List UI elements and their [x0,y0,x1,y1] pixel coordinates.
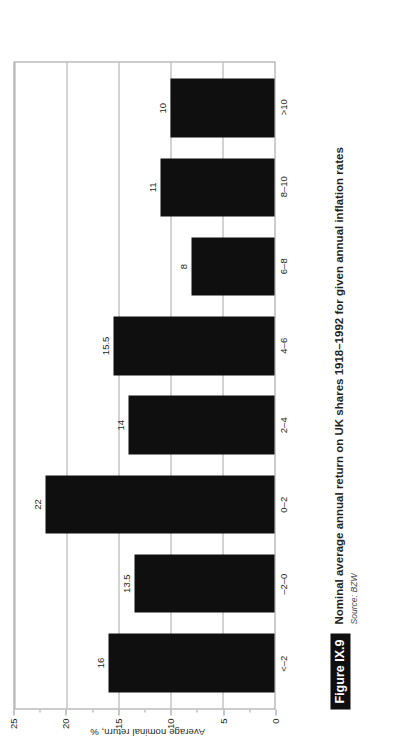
bar-value-label: 15.5 [99,336,110,355]
category-axis: <–2–2–00–22–44–66–88–10>10 [277,61,297,709]
axis-tick-label-10: 10 [165,718,176,729]
axis-tick-label-15: 15 [112,718,123,729]
bar-slot: 10 [14,68,274,147]
chart-figure: Average nominal return, % 25 20 15 10 5 [0,0,315,751]
bar-value-label: 16 [94,657,105,668]
axis-tick-label-0: 0 [270,718,281,723]
plot-area: 1613.5221415.581110 [13,61,275,709]
bar[interactable]: 14 [128,395,274,454]
bar-slot: 8 [14,227,274,306]
axis-tick-5 [223,709,224,715]
bar[interactable]: 10 [170,78,274,137]
bar-slot: 22 [14,464,274,543]
figure-number-badge: Figure IX.9 [330,633,350,709]
axis-tick-10 [170,709,171,715]
axis-tick-20 [65,709,66,715]
axis-minor-tick-7-5 [196,709,197,713]
bar-slot: 15.5 [14,306,274,385]
axis-minor-tick-22-5 [39,709,40,713]
category-axis-label: <–2 [277,624,297,704]
bar-value-label: 13.5 [120,574,131,593]
axis-tick-15 [118,709,119,715]
bar-slot: 11 [14,147,274,226]
bar[interactable]: 11 [160,158,274,217]
category-axis-label: 4–6 [277,306,297,386]
caption-text-block: Nominal average annual return on UK shar… [330,19,358,624]
category-axis-label: 2–4 [277,385,297,465]
category-axis-label: 6–8 [277,226,297,306]
bar-value-label: 10 [156,102,167,113]
bar-slot: 13.5 [14,544,274,623]
bar-value-label: 14 [114,419,125,430]
bar[interactable]: 15.5 [113,316,274,375]
value-axis: 25 20 15 10 5 0 [13,709,275,751]
bar[interactable]: 8 [191,237,274,296]
figure-caption: Figure IX.9 Nominal average annual retur… [330,19,358,709]
caption-title: Nominal average annual return on UK shar… [331,19,345,624]
axis-tick-0 [275,709,276,715]
bar-series: 1613.5221415.581110 [14,62,274,708]
bar-value-label: 11 [146,182,157,192]
category-axis-label: –2–0 [277,544,297,624]
axis-tick-label-25: 25 [8,718,19,729]
bar-slot: 16 [14,623,274,702]
axis-tick-label-5: 5 [217,718,228,723]
bar[interactable]: 22 [45,475,274,534]
rotated-page: Average nominal return, % 25 20 15 10 5 [0,0,401,751]
category-axis-label: 0–2 [277,465,297,545]
bar[interactable]: 16 [108,633,274,692]
caption-source: Source: BZW [348,19,358,624]
category-axis-label: >10 [277,67,297,147]
axis-minor-tick-17-5 [92,709,93,713]
axis-tick-label-20: 20 [60,718,71,729]
axis-minor-tick-12-5 [144,709,145,713]
bar-slot: 14 [14,385,274,464]
category-axis-label: 8–10 [277,147,297,227]
bar-value-label: 8 [177,263,188,268]
bar[interactable]: 13.5 [134,554,274,613]
figure-page: Average nominal return, % 25 20 15 10 5 [0,0,401,751]
bar-value-label: 22 [31,499,42,510]
axis-minor-tick-2-5 [249,709,250,713]
axis-tick-25 [13,709,14,715]
